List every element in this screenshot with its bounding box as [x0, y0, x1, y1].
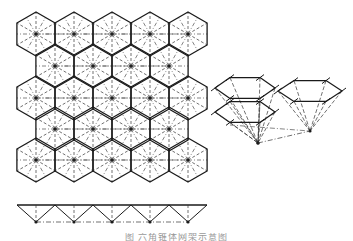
- diagonal: [93, 205, 112, 222]
- diagonal: [55, 205, 74, 222]
- diagonal: [131, 205, 150, 222]
- bottom-node: [72, 220, 75, 223]
- perspective-web: [310, 91, 342, 131]
- plan-view-hex-grid: [17, 12, 207, 182]
- perspective-view-units: [211, 75, 346, 145]
- diagram-canvas: [0, 0, 353, 241]
- perspective-web: [215, 88, 258, 143]
- diagonal: [150, 205, 169, 222]
- perspective-web: [258, 88, 275, 143]
- bottom-node: [110, 220, 113, 223]
- diagonal: [112, 205, 131, 222]
- perspective-web: [310, 81, 326, 131]
- apex-link: [230, 125, 310, 131]
- perspective-web: [294, 81, 310, 131]
- diagonal: [188, 205, 207, 222]
- bottom-node: [148, 220, 151, 223]
- bottom-node: [186, 220, 189, 223]
- section-view-truss: [17, 205, 207, 224]
- perspective-hex: [215, 78, 275, 99]
- bottom-node: [34, 220, 37, 223]
- apex-link: [258, 131, 310, 143]
- diagonal: [169, 205, 188, 222]
- perspective-web: [278, 91, 310, 131]
- perspective-web: [230, 78, 258, 143]
- diagonal: [17, 205, 36, 222]
- diagonal: [36, 205, 55, 222]
- diagonal: [74, 205, 93, 222]
- perspective-hex: [278, 81, 342, 102]
- figure-caption: 图 六角锥体网架示意图: [0, 233, 353, 241]
